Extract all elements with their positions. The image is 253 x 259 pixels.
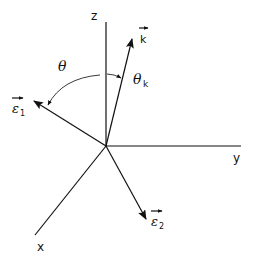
z-axis-label: z — [91, 9, 97, 23]
theta-k-label: θ k — [133, 71, 149, 89]
svg-text:θ: θ — [133, 71, 142, 87]
svg-text:1: 1 — [20, 109, 25, 118]
theta-arc — [48, 75, 100, 105]
svg-text:k: k — [143, 79, 149, 89]
coordinate-diagram: z y x k ε 1 ε 2 θ θ k — [0, 0, 253, 259]
x-axis — [35, 146, 106, 235]
theta-k-arc — [107, 74, 121, 78]
y-axis-label: y — [233, 151, 240, 165]
svg-text:ε: ε — [151, 214, 158, 229]
epsilon2-label: ε 2 — [151, 211, 164, 231]
epsilon1-vector — [34, 101, 106, 146]
epsilon1-label: ε 1 — [12, 98, 25, 118]
theta-label: θ — [58, 58, 67, 74]
svg-text:2: 2 — [159, 222, 164, 231]
k-label: k — [139, 28, 148, 46]
epsilon2-vector — [106, 146, 146, 219]
svg-text:k: k — [140, 33, 147, 46]
svg-text:ε: ε — [12, 101, 19, 116]
k-vector — [106, 39, 132, 146]
x-axis-label: x — [37, 240, 44, 254]
